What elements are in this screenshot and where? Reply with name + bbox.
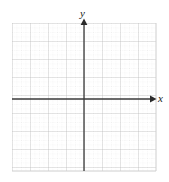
grid-plot-svg [0, 0, 169, 182]
y-axis-label: y [80, 8, 85, 19]
y-axis-arrowhead [81, 19, 88, 26]
coordinate-grid-figure: y x [0, 0, 169, 182]
x-axis-label: x [158, 93, 163, 104]
